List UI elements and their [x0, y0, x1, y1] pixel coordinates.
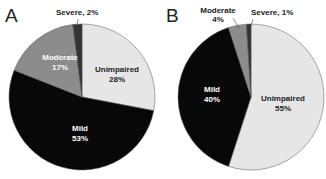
label-moderate-b-pct: 4% — [212, 15, 224, 24]
label-mild-b-name: Mild — [204, 85, 220, 94]
label-severe-b: Severe, 1% — [251, 8, 293, 17]
label-mild-b-pct: 40% — [204, 95, 220, 104]
panel-letter-b: B — [166, 5, 179, 26]
label-unimpaired-b-pct: 55% — [275, 104, 291, 113]
label-mild-a-pct: 53% — [72, 134, 88, 143]
label-unimpaired-a-pct: 28% — [109, 75, 125, 84]
label-mild-a-name: Mild — [72, 124, 88, 133]
pie-chart-b: B Moderate 4% Severe, 1% Mild 40% Unimpa… — [166, 5, 324, 170]
label-moderate-a-name: Moderate — [42, 53, 78, 62]
panel-letter-a: A — [5, 5, 18, 26]
pie-chart-a: A Severe, 2% Moderate 17% Unimpaired 28%… — [5, 5, 155, 170]
pie-a-slices — [9, 24, 155, 170]
label-unimpaired-a-name: Unimpaired — [95, 65, 139, 74]
label-severe-a: Severe, 2% — [56, 8, 98, 17]
label-moderate-a-pct: 17% — [52, 63, 68, 72]
label-unimpaired-b-name: Unimpaired — [261, 94, 305, 103]
figure: A Severe, 2% Moderate 17% Unimpaired 28%… — [0, 0, 326, 179]
label-moderate-b-name: Moderate — [200, 6, 236, 15]
